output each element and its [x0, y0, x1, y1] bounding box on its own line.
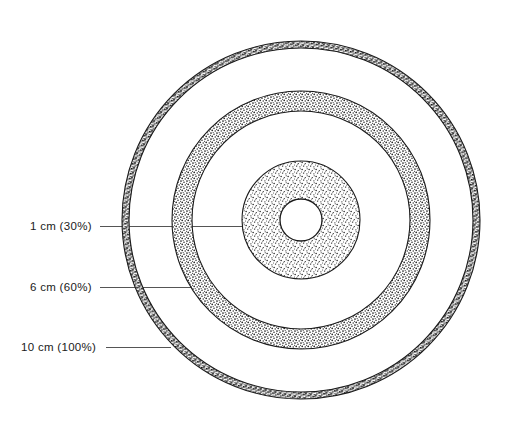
label-6cm: 6 cm (60%) — [30, 281, 92, 293]
label-10cm: 10 cm (100%) — [21, 341, 96, 353]
concentric-circles-diagram: 1 cm (30%) 6 cm (60%) 10 cm (100%) — [0, 0, 519, 429]
label-1cm: 1 cm (30%) — [30, 220, 92, 232]
figure-container: 1 cm (30%) 6 cm (60%) 10 cm (100%) — [0, 0, 519, 429]
ring-inner-1cm — [0, 0, 519, 429]
center-hole — [280, 199, 322, 241]
